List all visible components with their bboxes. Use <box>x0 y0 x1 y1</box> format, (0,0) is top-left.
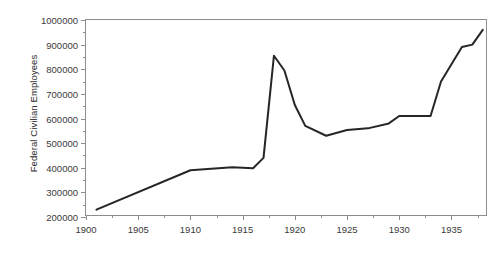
y-axis-minor-tick <box>83 131 86 132</box>
y-axis-tick-label: 600000 <box>46 113 78 124</box>
y-axis-minor-tick <box>83 180 86 181</box>
y-axis-tick <box>81 45 86 46</box>
y-axis-tick-label: 400000 <box>46 162 78 173</box>
x-axis-minor-tick <box>164 215 165 218</box>
x-axis-minor-tick <box>321 215 322 218</box>
x-axis-tick-label: 1910 <box>180 224 201 235</box>
x-axis-minor-tick <box>269 215 270 218</box>
x-axis-minor-tick <box>373 215 374 218</box>
y-axis-tick <box>81 143 86 144</box>
data-series-line <box>86 20 488 217</box>
y-axis-minor-tick <box>83 32 86 33</box>
x-axis-tick-label: 1900 <box>75 224 96 235</box>
y-axis-tick-label: 500000 <box>46 138 78 149</box>
y-axis-tick <box>81 69 86 70</box>
y-axis-minor-tick <box>83 205 86 206</box>
x-axis-tick-label: 1905 <box>128 224 149 235</box>
y-axis-tick-label: 800000 <box>46 64 78 75</box>
x-axis-tick <box>451 215 452 220</box>
x-axis-minor-tick <box>217 215 218 218</box>
x-axis-tick <box>295 215 296 220</box>
y-axis-tick <box>81 94 86 95</box>
x-axis-minor-tick <box>112 215 113 218</box>
y-axis-minor-tick <box>83 82 86 83</box>
x-axis-tick <box>347 215 348 220</box>
y-axis-minor-tick <box>83 106 86 107</box>
x-axis-minor-tick <box>425 215 426 218</box>
y-axis-tick <box>81 192 86 193</box>
x-axis-tick <box>86 215 87 220</box>
x-axis-tick <box>399 215 400 220</box>
chart-container: Federal Civilian Employees 2000003000004… <box>0 0 503 256</box>
x-axis-tick <box>190 215 191 220</box>
x-axis-minor-tick <box>478 215 479 218</box>
x-axis-tick <box>243 215 244 220</box>
y-axis-minor-tick <box>83 57 86 58</box>
y-axis-tick-label: 300000 <box>46 187 78 198</box>
plot-area: 2000003000004000005000006000007000008000… <box>85 19 487 216</box>
y-axis-title: Federal Civilian Employees <box>28 19 39 209</box>
x-axis-tick-label: 1920 <box>284 224 305 235</box>
x-axis-tick-label: 1935 <box>441 224 462 235</box>
x-axis-tick-label: 1915 <box>232 224 253 235</box>
x-axis-tick-label: 1930 <box>389 224 410 235</box>
y-axis-tick-label: 700000 <box>46 88 78 99</box>
y-axis-tick-label: 1000000 <box>41 15 78 26</box>
x-axis-tick-label: 1925 <box>336 224 357 235</box>
y-axis-tick <box>81 119 86 120</box>
x-axis-tick <box>138 215 139 220</box>
y-axis-tick <box>81 168 86 169</box>
y-axis-minor-tick <box>83 155 86 156</box>
y-axis-tick <box>81 20 86 21</box>
y-axis-tick-label: 900000 <box>46 39 78 50</box>
y-axis-tick-label: 200000 <box>46 212 78 223</box>
